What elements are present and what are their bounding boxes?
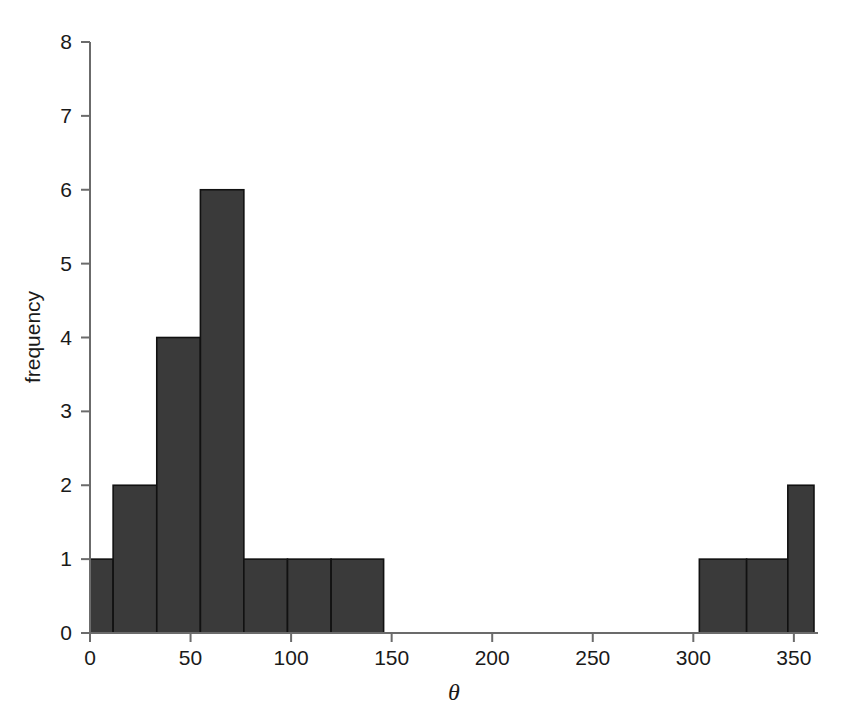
histogram-bars bbox=[90, 190, 814, 633]
y-axis-ticks: 012345678 bbox=[60, 30, 90, 644]
histogram-bar bbox=[747, 559, 788, 633]
x-tick-label: 300 bbox=[676, 646, 711, 669]
x-tick-label: 350 bbox=[776, 646, 811, 669]
x-tick-label: 100 bbox=[274, 646, 309, 669]
histogram-bar bbox=[699, 559, 746, 633]
histogram-bar bbox=[113, 485, 157, 633]
x-tick-label: 150 bbox=[374, 646, 409, 669]
y-tick-label: 1 bbox=[60, 547, 72, 570]
histogram-bar bbox=[287, 559, 331, 633]
y-tick-label: 7 bbox=[60, 104, 72, 127]
x-tick-label: 200 bbox=[475, 646, 510, 669]
x-tick-label: 50 bbox=[179, 646, 202, 669]
histogram-bar bbox=[331, 559, 383, 633]
y-axis-label: frequency bbox=[21, 290, 44, 383]
histogram-bar bbox=[788, 485, 814, 633]
y-tick-label: 8 bbox=[60, 30, 72, 53]
histogram-figure: 012345678 050100150200250300350 frequenc… bbox=[0, 0, 853, 723]
y-tick-label: 5 bbox=[60, 252, 72, 275]
histogram-plot: 012345678 050100150200250300350 frequenc… bbox=[0, 0, 853, 723]
histogram-bar bbox=[90, 559, 113, 633]
histogram-bar bbox=[200, 190, 243, 633]
y-tick-label: 6 bbox=[60, 178, 72, 201]
x-axis-label: θ bbox=[448, 679, 460, 705]
y-tick-label: 4 bbox=[60, 326, 72, 349]
x-tick-label: 250 bbox=[575, 646, 610, 669]
histogram-bar bbox=[157, 338, 201, 634]
y-tick-label: 2 bbox=[60, 473, 72, 496]
x-tick-label: 0 bbox=[84, 646, 96, 669]
y-tick-label: 3 bbox=[60, 399, 72, 422]
histogram-bar bbox=[244, 559, 288, 633]
y-tick-label: 0 bbox=[60, 621, 72, 644]
x-axis-ticks: 050100150200250300350 bbox=[84, 633, 811, 669]
